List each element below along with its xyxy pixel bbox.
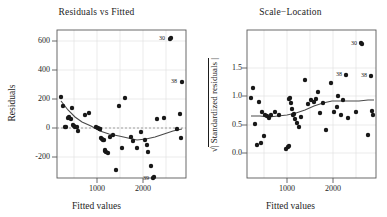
scatter-points-left	[59, 36, 184, 180]
outlier-labels-left: 30 38 39	[143, 35, 177, 181]
plot-canvas-left: 30 38 39	[0, 0, 193, 217]
gridlines-left	[57, 30, 186, 178]
panel-scale-location: Scale−Location √| Standardized residuals…	[194, 0, 387, 217]
point-label-30-right: 30	[351, 40, 357, 46]
gridlines-right	[247, 30, 376, 178]
panel-border-right	[247, 30, 376, 178]
tick-marks-left	[52, 41, 143, 183]
plot-canvas-right: 30 38 38	[194, 0, 387, 217]
loess-curve-left	[61, 101, 182, 140]
point-label-38-right: 38	[336, 71, 342, 77]
panel-residuals-vs-fitted: Residuals vs Fitted Residuals 600 400 20…	[0, 0, 193, 217]
diagnostic-plots-figure: Residuals vs Fitted Residuals 600 400 20…	[0, 0, 387, 217]
point-label-39-right: 38	[361, 72, 367, 78]
point-label-30: 30	[159, 35, 165, 41]
point-label-39: 39	[143, 175, 149, 181]
point-label-38: 38	[171, 78, 177, 84]
panel-border-left	[57, 30, 186, 178]
